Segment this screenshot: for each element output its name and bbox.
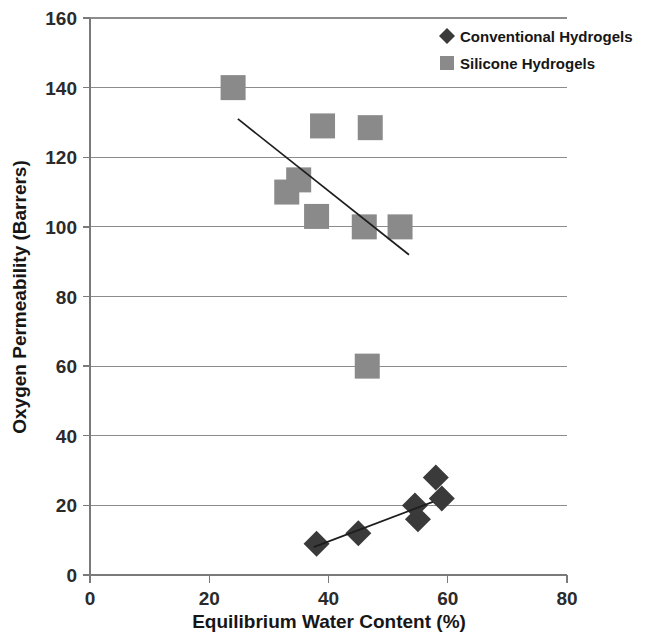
x-tick-label-60: 60 bbox=[437, 588, 458, 609]
y-tick-label-0: 0 bbox=[66, 565, 77, 586]
y-tick-label-140: 140 bbox=[45, 78, 77, 99]
chart-background bbox=[0, 0, 649, 632]
y-tick-label-120: 120 bbox=[45, 147, 77, 168]
legend-label: Silicone Hydrogels bbox=[460, 55, 595, 72]
data-point-square bbox=[221, 75, 246, 100]
data-point-square bbox=[388, 214, 413, 239]
x-tick-label-80: 80 bbox=[556, 588, 577, 609]
y-tick-label-100: 100 bbox=[45, 217, 77, 238]
chart-figure: 020406080100120140160 020406080 Oxygen P… bbox=[0, 0, 649, 632]
legend-entry-2: Silicone Hydrogels bbox=[440, 55, 595, 72]
y-tick-label-60: 60 bbox=[56, 356, 77, 377]
x-tick-label-40: 40 bbox=[318, 588, 339, 609]
data-point-square bbox=[355, 354, 380, 379]
x-axis-title: Equilibrium Water Content (%) bbox=[192, 611, 466, 632]
data-point-square bbox=[304, 204, 329, 229]
data-point-square bbox=[286, 167, 311, 192]
legend-entry-1: Conventional Hydrogels bbox=[439, 28, 633, 45]
y-tick-label-20: 20 bbox=[56, 495, 77, 516]
y-tick-label-80: 80 bbox=[56, 287, 77, 308]
y-tick-label-40: 40 bbox=[56, 426, 77, 447]
y-axis-title: Oxygen Permeability (Barrers) bbox=[9, 160, 30, 434]
data-point-square bbox=[358, 115, 383, 140]
x-tick-label-0: 0 bbox=[85, 588, 96, 609]
scatter-plot: 020406080100120140160 020406080 Oxygen P… bbox=[0, 0, 649, 632]
y-tick-label-160: 160 bbox=[45, 8, 77, 29]
data-point-square bbox=[310, 113, 335, 138]
legend-square-icon bbox=[440, 56, 454, 70]
legend-label: Conventional Hydrogels bbox=[460, 28, 633, 45]
x-tick-label-20: 20 bbox=[199, 588, 220, 609]
